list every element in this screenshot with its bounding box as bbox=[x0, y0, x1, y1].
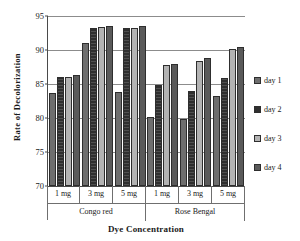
x-group-label: Rose Bengal bbox=[146, 204, 245, 221]
legend-label: day 1 bbox=[264, 76, 282, 85]
bar-day-1 bbox=[49, 93, 56, 186]
x-axis-tier-dye: Congo redRose Bengal bbox=[47, 203, 245, 221]
legend-label: day 4 bbox=[264, 163, 282, 172]
bar-day-1 bbox=[180, 119, 187, 186]
legend-swatch-icon bbox=[254, 164, 261, 171]
bar-day-2 bbox=[188, 91, 195, 186]
legend: day 1day 2day 3day 4 bbox=[254, 66, 300, 182]
y-tick-label-95: 95 bbox=[36, 12, 45, 21]
bar-cluster bbox=[81, 16, 114, 186]
bars-layer bbox=[48, 16, 245, 186]
x-tick-label: 3 mg bbox=[80, 186, 113, 203]
legend-label: day 2 bbox=[264, 105, 282, 114]
bar-day-1 bbox=[147, 117, 154, 186]
legend-swatch-icon bbox=[254, 77, 261, 84]
y-tick-label-75: 75 bbox=[36, 148, 45, 157]
bar-day-3 bbox=[65, 77, 72, 186]
y-tick-label-80: 80 bbox=[36, 114, 45, 123]
y-tick-label-70: 70 bbox=[36, 182, 45, 191]
bar-day-3 bbox=[196, 61, 203, 186]
bar-day-2 bbox=[221, 78, 228, 186]
y-tick-label-85: 85 bbox=[36, 80, 45, 89]
bar-day-1 bbox=[115, 92, 122, 186]
bar-day-3 bbox=[131, 28, 138, 186]
plot-area: 707580859095 bbox=[47, 16, 245, 186]
bar-day-3 bbox=[98, 27, 105, 186]
bar-cluster bbox=[146, 16, 179, 186]
bar-day-4 bbox=[106, 26, 113, 186]
bar-cluster bbox=[114, 16, 147, 186]
bar-cluster bbox=[48, 16, 81, 186]
y-axis-title: Rate of Decolorization bbox=[12, 32, 22, 162]
x-tick-label: 1 mg bbox=[47, 186, 80, 203]
bar-cluster bbox=[179, 16, 212, 186]
legend-swatch-icon bbox=[254, 135, 261, 142]
x-tick-label: 5 mg bbox=[212, 186, 245, 203]
bar-day-4 bbox=[139, 26, 146, 186]
bar-day-1 bbox=[213, 96, 220, 186]
legend-item-day-3[interactable]: day 3 bbox=[254, 124, 300, 153]
x-tick-label: 1 mg bbox=[146, 186, 179, 203]
bar-day-4 bbox=[237, 47, 244, 186]
legend-item-day-2[interactable]: day 2 bbox=[254, 95, 300, 124]
bar-day-1 bbox=[82, 43, 89, 186]
bar-day-4 bbox=[73, 75, 80, 186]
y-tick-label-90: 90 bbox=[36, 46, 45, 55]
bar-day-3 bbox=[229, 49, 236, 186]
bar-day-2 bbox=[155, 85, 162, 186]
legend-item-day-1[interactable]: day 1 bbox=[254, 66, 300, 95]
legend-swatch-icon bbox=[254, 106, 261, 113]
x-axis-labels: 1 mg3 mg5 mg1 mg3 mg5 mg Congo redRose B… bbox=[47, 186, 245, 226]
bar-day-2 bbox=[90, 28, 97, 186]
bar-day-2 bbox=[57, 77, 64, 186]
bar-day-2 bbox=[123, 28, 130, 186]
legend-item-day-4[interactable]: day 4 bbox=[254, 153, 300, 182]
x-group-label: Congo red bbox=[47, 204, 146, 221]
bar-cluster bbox=[212, 16, 245, 186]
x-tick-label: 5 mg bbox=[113, 186, 146, 203]
x-axis-tier-concentration: 1 mg3 mg5 mg1 mg3 mg5 mg bbox=[47, 186, 245, 203]
bar-day-3 bbox=[163, 65, 170, 186]
bar-day-4 bbox=[204, 58, 211, 186]
bar-chart: Rate of Decolorization 707580859095 1 mg… bbox=[0, 0, 300, 241]
x-axis-title: Dye Concentration bbox=[47, 224, 245, 234]
x-tick-label: 3 mg bbox=[179, 186, 212, 203]
legend-label: day 3 bbox=[264, 134, 282, 143]
bar-day-4 bbox=[171, 64, 178, 186]
